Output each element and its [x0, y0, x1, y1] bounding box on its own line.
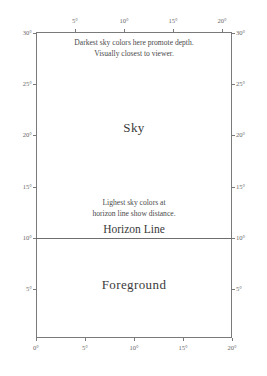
tick-mark-left-3 — [33, 187, 36, 188]
tick-mark-bottom-3 — [183, 338, 184, 341]
axis-tick-bottom-3: 15° — [173, 344, 193, 351]
horizon-rule — [36, 238, 232, 239]
tick-mark-top-3 — [222, 29, 223, 32]
axis-tick-bottom-4: 20° — [222, 344, 242, 351]
axis-tick-left-0: 30° — [14, 29, 32, 36]
tick-mark-left-1 — [33, 84, 36, 85]
tick-mark-right-0 — [232, 33, 235, 34]
axis-tick-top-2: 15° — [163, 17, 183, 24]
axis-tick-right-2: 20° — [236, 131, 254, 138]
annotation-darkest-sky-line1: Darkest sky colors here promote depth. — [36, 38, 232, 49]
axis-tick-left-1: 25° — [14, 80, 32, 87]
axis-tick-left-3: 15° — [14, 183, 32, 190]
tick-mark-bottom-0 — [36, 338, 37, 341]
annotation-lightest-sky-line2: horizon line show distance. — [36, 209, 232, 220]
axis-tick-bottom-2: 10° — [124, 344, 144, 351]
tick-mark-left-2 — [33, 135, 36, 136]
tick-mark-right-1 — [232, 84, 235, 85]
tick-mark-right-2 — [232, 135, 235, 136]
tick-mark-bottom-2 — [134, 338, 135, 341]
axis-tick-right-5: 5° — [236, 285, 254, 292]
axis-tick-right-1: 25° — [236, 80, 254, 87]
axis-tick-bottom-1: 5° — [75, 344, 95, 351]
sky-region-label: Sky — [36, 120, 232, 136]
axis-tick-right-4: 10° — [236, 234, 254, 241]
tick-mark-bottom-1 — [85, 338, 86, 341]
annotation-darkest-sky: Darkest sky colors here promote depth. V… — [36, 38, 232, 59]
axis-tick-left-4: 10° — [14, 234, 32, 241]
tick-mark-right-4 — [232, 238, 235, 239]
tick-mark-top-1 — [124, 29, 125, 32]
annotation-lightest-sky-line1: Lighest sky colors at — [36, 198, 232, 209]
axis-tick-top-0: 5° — [65, 17, 85, 24]
tick-mark-right-5 — [232, 289, 235, 290]
tick-mark-right-3 — [232, 187, 235, 188]
annotation-darkest-sky-line2: Visually closest to viewer. — [36, 49, 232, 60]
tick-mark-left-5 — [33, 289, 36, 290]
foreground-region-label: Foreground — [36, 277, 232, 293]
annotation-lightest-sky: Lighest sky colors at horizon line show … — [36, 198, 232, 219]
axis-tick-bottom-0: 0° — [26, 344, 46, 351]
axis-tick-right-0: 30° — [236, 29, 254, 36]
tick-mark-left-4 — [33, 238, 36, 239]
tick-mark-top-2 — [173, 29, 174, 32]
horizon-diagram-figure: Sky Foreground Horizon Line Darkest sky … — [0, 0, 267, 376]
axis-tick-top-3: 20° — [212, 17, 232, 24]
axis-tick-top-1: 10° — [114, 17, 134, 24]
axis-tick-right-3: 15° — [236, 183, 254, 190]
axis-tick-left-2: 20° — [14, 131, 32, 138]
tick-mark-left-0 — [33, 33, 36, 34]
tick-mark-top-0 — [75, 29, 76, 32]
horizon-line-label: Horizon Line — [36, 223, 232, 235]
tick-mark-bottom-4 — [232, 338, 233, 341]
axis-tick-left-5: 5° — [14, 285, 32, 292]
